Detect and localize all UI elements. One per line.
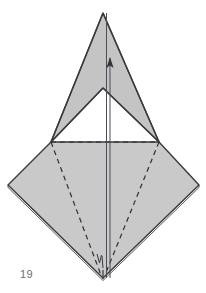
origami-figure: 19 bbox=[0, 0, 206, 293]
step-number-label: 19 bbox=[20, 268, 33, 280]
origami-diagram-svg bbox=[0, 0, 206, 293]
